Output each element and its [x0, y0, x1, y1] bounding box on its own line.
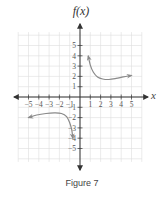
y-tick-label: −5 [68, 144, 76, 153]
y-tick-label: −1 [68, 103, 76, 112]
x-tick-label: 1 [88, 100, 92, 109]
y-tick-label: 5 [72, 41, 76, 50]
figure-caption: Figure 7 [0, 178, 164, 188]
x-axis-label: x [151, 89, 156, 101]
x-tick-label: −4 [35, 100, 43, 109]
y-tick-label: 2 [72, 72, 76, 81]
x-tick-label: −2 [55, 100, 63, 109]
x-tick-label: −3 [45, 100, 53, 109]
figure-7: −5−4−3−2−11234554321−1−2−3−4−5 f(x) x Fi… [0, 0, 164, 198]
x-tick-label: 4 [119, 100, 123, 109]
y-tick-label: 1 [72, 82, 76, 91]
curve-left-branch [29, 113, 73, 138]
y-tick-label: 4 [72, 52, 76, 61]
x-tick-label: 5 [130, 100, 134, 109]
function-graph: −5−4−3−2−11234554321−1−2−3−4−5 [0, 0, 164, 198]
curve-right-branch [88, 56, 131, 80]
x-tick-label: 3 [109, 100, 113, 109]
y-tick-label: 3 [72, 62, 76, 71]
x-tick-label: 2 [99, 100, 103, 109]
y-axis-label: f(x) [66, 4, 96, 19]
x-tick-label: −5 [25, 100, 33, 109]
